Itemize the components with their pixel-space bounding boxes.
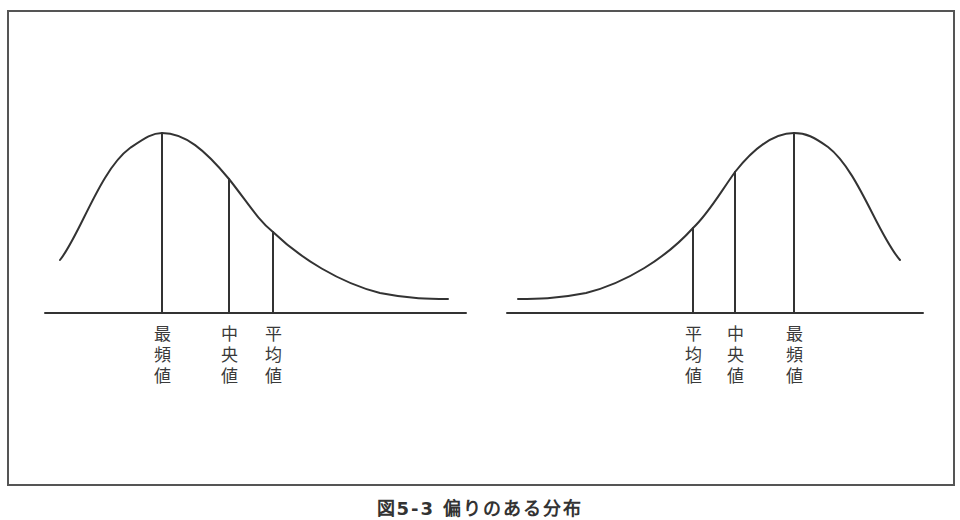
left-skewed-chart	[507, 133, 923, 313]
mean-label-left: 平 均 値	[263, 324, 283, 387]
median-label-left: 中 央 値	[219, 324, 239, 387]
mean-label-right: 平 均 値	[683, 324, 703, 387]
curve-right-skewed	[60, 133, 448, 299]
right-skewed-chart	[45, 133, 466, 313]
median-label-right: 中 央 値	[725, 324, 745, 387]
mode-label-left: 最 頻 値	[152, 324, 172, 387]
figure-caption: 図5-3 偏りのある分布	[0, 494, 960, 520]
mode-label-right: 最 頻 値	[784, 324, 804, 387]
curve-left-skewed	[518, 133, 900, 299]
